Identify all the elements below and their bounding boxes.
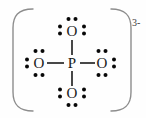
lewis-structure-canvas: P O O O O 3-	[0, 0, 146, 118]
dots-left-o-below-dot-2	[41, 73, 45, 77]
dots-bottom-o-right-dot-1	[82, 88, 86, 92]
dots-bottom-o-below-dot-1	[67, 103, 71, 107]
charge-superscript: 3-	[132, 17, 140, 28]
dots-top-o-above-dot-2	[74, 17, 78, 21]
dots-bottom-o-left-dot-1	[58, 88, 62, 92]
dots-left-o-below-dot-1	[34, 73, 38, 77]
dots-left-o-left-dot-2	[25, 65, 29, 69]
dots-top-o-right-dot-1	[82, 25, 86, 29]
atom-label-phosphorus: P	[68, 55, 76, 71]
atom-label-oxygen-left: O	[34, 55, 45, 71]
atom-label-oxygen-right: O	[97, 55, 108, 71]
atom-label-oxygen-bottom: O	[67, 85, 78, 101]
left-bracket	[13, 9, 33, 111]
dots-right-o-right-dot-1	[112, 58, 116, 62]
dots-left-o-above-dot-1	[34, 49, 38, 53]
dots-left-o-above-dot-2	[41, 49, 45, 53]
dots-right-o-above-dot-2	[104, 49, 108, 53]
dots-right-o-above-dot-1	[97, 49, 101, 53]
dots-bottom-o-below-dot-2	[74, 103, 78, 107]
dots-right-o-below-dot-1	[97, 73, 101, 77]
dots-right-o-below-dot-2	[104, 73, 108, 77]
dots-right-o-right-dot-2	[112, 65, 116, 69]
atom-label-oxygen-top: O	[67, 23, 78, 39]
dots-top-o-above-dot-1	[67, 17, 71, 21]
dots-top-o-left-dot-1	[58, 25, 62, 29]
dots-top-o-right-dot-2	[82, 32, 86, 36]
dots-left-o-left-dot-1	[25, 58, 29, 62]
dots-bottom-o-left-dot-2	[58, 95, 62, 99]
dots-bottom-o-right-dot-2	[82, 95, 86, 99]
lewis-structure-figure: P O O O O 3-	[0, 0, 146, 118]
dots-top-o-left-dot-2	[58, 32, 62, 36]
